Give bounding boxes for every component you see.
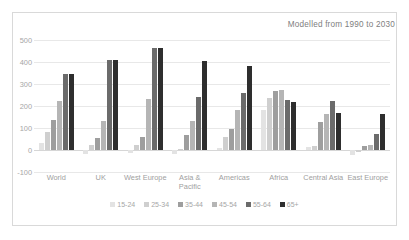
bar <box>261 110 266 150</box>
bar <box>306 147 311 150</box>
bar-group <box>301 40 346 172</box>
bar <box>362 146 367 150</box>
bar-slot <box>324 40 329 172</box>
bar <box>101 121 106 150</box>
bar <box>178 149 183 150</box>
bar-slot <box>45 40 50 172</box>
legend-swatch-icon <box>280 202 285 207</box>
bar <box>273 91 278 150</box>
bar-slot <box>140 40 145 172</box>
bar <box>336 113 341 150</box>
bar <box>39 143 44 150</box>
bar-slot <box>261 40 266 172</box>
legend-swatch-icon <box>212 202 217 207</box>
bar-slot <box>69 40 74 172</box>
bar <box>247 66 252 150</box>
bar <box>51 120 56 150</box>
bar <box>330 101 335 150</box>
x-axis-label: East Europe <box>346 174 391 191</box>
bar-slot <box>330 40 335 172</box>
y-axis-tick-label: 0 <box>2 146 32 155</box>
legend-label: 65+ <box>287 201 299 208</box>
legend-item[interactable]: 15-24 <box>110 201 135 208</box>
bar <box>89 145 94 150</box>
bar-slot <box>51 40 56 172</box>
chart-title: Modelled from 1990 to 2030 <box>288 20 395 29</box>
legend-label: 55-64 <box>253 201 271 208</box>
bar <box>374 134 379 150</box>
bar <box>113 60 118 150</box>
bar-group <box>168 40 213 172</box>
bar-groups <box>34 40 390 172</box>
bar-group <box>34 40 79 172</box>
bar-slot <box>362 40 367 172</box>
bar-slot <box>152 40 157 172</box>
bar <box>241 93 246 150</box>
bar-slot <box>223 40 228 172</box>
legend-item[interactable]: 65+ <box>280 201 299 208</box>
bar <box>312 146 317 150</box>
bar-group-bars <box>212 40 257 172</box>
bar-group <box>346 40 391 172</box>
bar-group <box>123 40 168 172</box>
bar-slot <box>39 40 44 172</box>
y-axis-tick-label: 500 <box>2 36 32 45</box>
bar-slot <box>184 40 189 172</box>
x-axis-label: UK <box>79 174 124 191</box>
bar <box>63 74 68 150</box>
bar-slot <box>336 40 341 172</box>
bar <box>324 114 329 150</box>
bar-slot <box>128 40 133 172</box>
bar-slot <box>279 40 284 172</box>
bar-slot <box>89 40 94 172</box>
bar-group <box>257 40 302 172</box>
bar-group-bars <box>34 40 79 172</box>
x-axis-label: World <box>34 174 79 191</box>
bar <box>285 100 290 150</box>
bar <box>184 135 189 150</box>
legend-item[interactable]: 25-34 <box>144 201 169 208</box>
legend-label: 15-24 <box>117 201 135 208</box>
bar-slot <box>158 40 163 172</box>
bar <box>350 150 355 155</box>
bar-slot <box>368 40 373 172</box>
bar-slot <box>356 40 361 172</box>
bar <box>134 145 139 151</box>
bar <box>380 114 385 150</box>
bar-group-bars <box>257 40 302 172</box>
bar-slot <box>229 40 234 172</box>
bar-group-bars <box>123 40 168 172</box>
legend-item[interactable]: 35-44 <box>178 201 203 208</box>
bar <box>279 90 284 150</box>
bar <box>107 60 112 150</box>
legend-swatch-icon <box>144 202 149 207</box>
bar <box>57 101 62 151</box>
bar-slot <box>196 40 201 172</box>
bar <box>152 48 157 150</box>
bar <box>291 102 296 150</box>
bar-slot <box>63 40 68 172</box>
bar <box>267 98 272 150</box>
bar-slot <box>318 40 323 172</box>
bar-group <box>79 40 124 172</box>
x-axis-label: Africa <box>257 174 302 191</box>
bar <box>146 99 151 150</box>
legend-item[interactable]: 45-54 <box>212 201 237 208</box>
bar-slot <box>83 40 88 172</box>
chart-legend: 15-2425-3435-4445-5455-6465+ <box>0 201 409 208</box>
bar-slot <box>273 40 278 172</box>
bar <box>45 132 50 150</box>
bar <box>196 97 201 150</box>
legend-item[interactable]: 55-64 <box>246 201 271 208</box>
y-axis-tick-label: 100 <box>2 124 32 133</box>
bar-slot <box>217 40 222 172</box>
bar-slot <box>312 40 317 172</box>
bar-group-bars <box>301 40 346 172</box>
y-axis-tick-label: 200 <box>2 102 32 111</box>
x-axis-label: Central Asia <box>301 174 346 191</box>
legend-swatch-icon <box>246 202 251 207</box>
y-axis-tick-label: 400 <box>2 58 32 67</box>
bar <box>140 137 145 150</box>
legend-label: 25-34 <box>151 201 169 208</box>
bar-slot <box>178 40 183 172</box>
